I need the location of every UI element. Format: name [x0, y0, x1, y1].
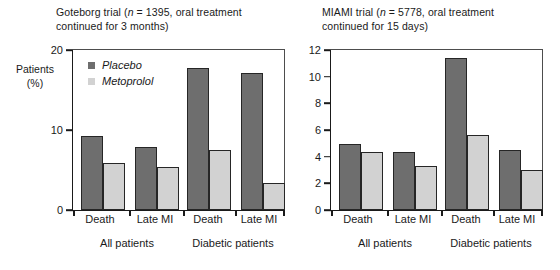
x-category-label-all-death: Death [72, 213, 128, 225]
plot-top-border [331, 49, 542, 50]
bar-goteborg-diabetic-latemi-metoprolol [263, 183, 285, 210]
y-tick-0 [324, 209, 331, 211]
y-tick-label-10: 10 [51, 125, 63, 136]
bar-goteborg-diabetic-death-placebo [187, 68, 209, 210]
legend-swatch-placebo [88, 62, 95, 69]
y-tick-label-20: 20 [51, 45, 63, 56]
x-category-label-all-latemi: Late MI [386, 213, 440, 225]
chart-title-goteborg: Goteborg trial (n = 1395, oral treatment… [56, 6, 292, 33]
bar-miami-diabetic-death-placebo [445, 58, 467, 210]
bar-goteborg-all-death-metoprolol [103, 163, 125, 211]
x-group-label-diabetic-patients: Diabetic patients [182, 237, 284, 249]
y-tick-label-6: 6 [315, 125, 321, 136]
legend: Placebo Metoprolol [88, 57, 153, 89]
bar-miami-all-death-placebo [339, 144, 361, 210]
bar-goteborg-all-latemi-placebo [135, 147, 157, 210]
chart-title-line1: Goteborg trial (n = 1395, oral treatment [56, 6, 242, 18]
y-tick-label-0: 0 [57, 205, 63, 216]
chart-title-line2: continued for 3 months) [56, 20, 169, 32]
y-tick-6 [324, 129, 331, 131]
chart-panel-miami: MIAMI trial (n = 5778, oral treatmentcon… [292, 0, 560, 270]
y-tick-label-12: 12 [309, 45, 321, 56]
y-tick-12 [324, 49, 331, 51]
legend-label-placebo: Placebo [102, 60, 142, 71]
plot-area-miami: 12 10 8 6 4 2 0 [330, 50, 542, 211]
legend-item-placebo: Placebo [88, 57, 153, 73]
bar-goteborg-all-death-placebo [81, 136, 103, 210]
bar-miami-diabetic-latemi-placebo [499, 150, 521, 210]
figure-root: Goteborg trial (n = 1395, oral treatment… [0, 0, 560, 270]
y-tick-10 [324, 76, 331, 78]
bar-miami-all-death-metoprolol [361, 152, 383, 210]
chart-title-miami: MIAMI trial (n = 5778, oral treatmentcon… [322, 6, 560, 33]
x-category-label-all-latemi: Late MI [128, 213, 182, 225]
y-tick-4 [324, 156, 331, 158]
chart-title-line2: continued for 15 days) [322, 20, 428, 32]
y-tick-label-2: 2 [315, 178, 321, 189]
x-category-label-diabetic-latemi: Late MI [492, 213, 542, 225]
y-tick-8 [324, 103, 331, 105]
y-tick-label-4: 4 [315, 151, 321, 162]
x-group-label-diabetic-patients: Diabetic patients [440, 237, 542, 249]
chart-title-line1: MIAMI trial (n = 5778, oral treatment [322, 6, 494, 18]
legend-swatch-metoprolol [88, 78, 95, 85]
x-category-label-diabetic-death: Death [440, 213, 492, 225]
x-category-label-all-death: Death [330, 213, 386, 225]
y-tick-10 [66, 129, 73, 131]
bar-goteborg-all-latemi-metoprolol [157, 167, 179, 210]
y-axis-title-text: Patients (%) [16, 63, 54, 89]
chart-panel-goteborg: Goteborg trial (n = 1395, oral treatment… [0, 0, 292, 270]
legend-item-metoprolol: Metoprolol [88, 73, 153, 89]
bar-goteborg-diabetic-death-metoprolol [209, 150, 231, 210]
x-category-label-diabetic-death: Death [182, 213, 234, 225]
bar-miami-diabetic-death-metoprolol [467, 135, 489, 210]
x-group-label-all-patients: All patients [330, 237, 440, 249]
y-tick-label-8: 8 [315, 98, 321, 109]
y-tick-2 [324, 183, 331, 185]
bar-goteborg-diabetic-latemi-placebo [241, 73, 263, 210]
y-axis-title: Patients (%) [2, 62, 68, 90]
bar-miami-all-latemi-metoprolol [415, 166, 437, 210]
y-tick-label-0: 0 [315, 205, 321, 216]
y-tick-20 [66, 49, 73, 51]
y-tick-label-10: 10 [309, 71, 321, 82]
plot-top-border [73, 49, 284, 50]
bar-miami-diabetic-latemi-metoprolol [521, 170, 543, 210]
x-group-label-all-patients: All patients [72, 237, 182, 249]
bar-miami-all-latemi-placebo [393, 152, 415, 210]
legend-label-metoprolol: Metoprolol [102, 76, 153, 87]
x-category-label-diabetic-latemi: Late MI [234, 213, 284, 225]
y-tick-0 [66, 209, 73, 211]
